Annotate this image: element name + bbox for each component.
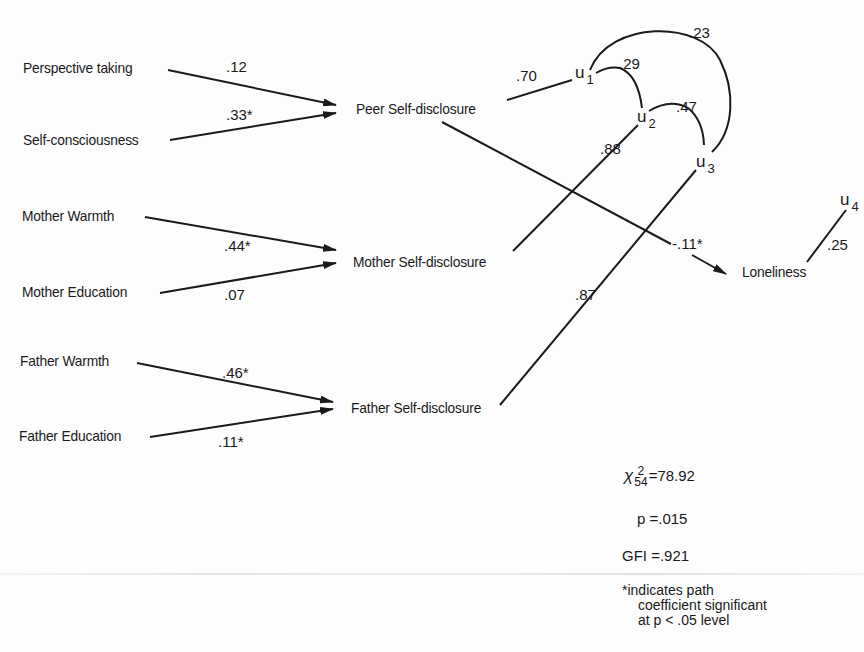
- coef-fedu-father: .11*: [218, 433, 244, 450]
- node-mother-self-disclosure: Mother Self-disclosure: [353, 253, 486, 270]
- diagram-edges: [0, 0, 864, 652]
- path-perspective-to-peer: [168, 70, 336, 105]
- coef-u2-mother: .88: [600, 140, 621, 157]
- corr-u1-u2: [596, 68, 642, 108]
- path-peer-to-loneliness: [442, 122, 671, 244]
- node-peer-self-disclosure: Peer Self-disclosure: [356, 100, 476, 117]
- corr-u1-u3: [590, 31, 730, 152]
- node-loneliness: Loneliness: [742, 263, 806, 280]
- node-mother-education: Mother Education: [22, 283, 127, 300]
- node-father-warmth: Father Warmth: [20, 352, 109, 369]
- residual-u3: u3: [696, 152, 715, 176]
- fit-p-value: p =.015: [637, 510, 687, 527]
- coef-fwarmth-father: .46*: [222, 364, 249, 381]
- coef-selfcon-peer: .33*: [226, 106, 253, 123]
- node-father-self-disclosure: Father Self-disclosure: [351, 399, 481, 416]
- node-self-consciousness: Self-consciousness: [23, 131, 139, 148]
- residual-u4: u4: [840, 190, 859, 214]
- coef-u4-loneliness: .25: [827, 236, 848, 253]
- corr-u1-u2-coef: .29: [619, 55, 640, 72]
- coef-peer-loneliness: -.11*: [672, 235, 703, 252]
- node-perspective-taking: Perspective taking: [23, 59, 132, 76]
- path-diagram: Perspective taking Self-consciousness Mo…: [0, 0, 864, 652]
- coef-perspective-peer: .12: [226, 58, 247, 75]
- corr-u1-u3-coef: .23: [689, 24, 710, 41]
- coef-medu-mother: .07: [224, 286, 245, 303]
- fit-chi-square: χ254=78.92: [624, 466, 695, 488]
- path-medu-to-mother: [160, 263, 336, 293]
- residual-u2: u2: [637, 107, 656, 131]
- node-mother-warmth: Mother Warmth: [22, 207, 114, 224]
- coef-mwarmth-mother: .44*: [224, 237, 251, 254]
- coef-u3-father: .87: [575, 286, 596, 303]
- corr-u2-u3-coef: .47: [676, 98, 697, 115]
- fit-gfi: GFI =.921: [622, 547, 689, 564]
- path-selfcon-to-peer: [170, 113, 336, 140]
- residual-u1: u1: [575, 63, 594, 87]
- node-father-education: Father Education: [19, 427, 121, 444]
- significance-note: *indicates path coefficient significant …: [622, 583, 767, 628]
- coef-u1-peer: .70: [516, 67, 537, 84]
